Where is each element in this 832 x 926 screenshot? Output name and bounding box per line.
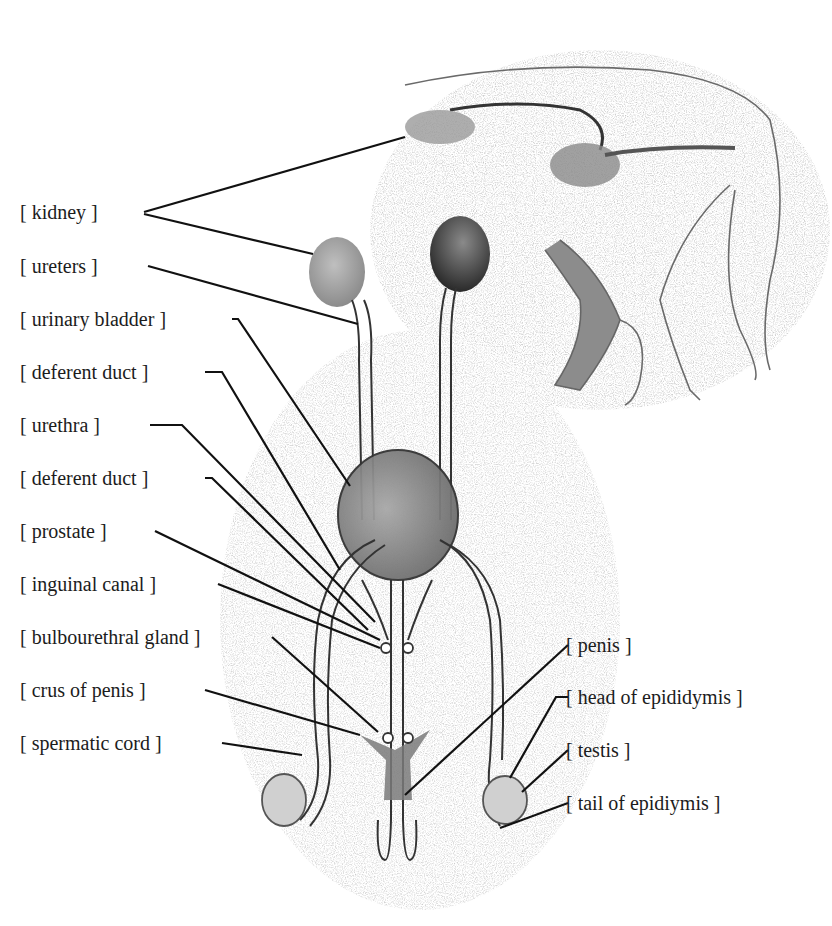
label-spermatic-cord: [ spermatic cord ] <box>20 731 162 755</box>
left-kidney <box>309 237 365 307</box>
label-penis: [ penis ] <box>566 633 632 657</box>
label-inguinal-canal: [ inguinal canal ] <box>20 572 156 596</box>
left-testis <box>262 774 306 826</box>
label-bulbourethral-gland: [ bulbourethral gland ] <box>20 625 201 649</box>
label-deferent-duct-1: [ deferent duct ] <box>20 360 148 384</box>
right-kidney <box>430 216 490 292</box>
label-ureters: [ ureters ] <box>20 254 98 278</box>
label-tail-of-epididymis: [ tail of epidiymis ] <box>566 791 720 815</box>
anatomy-illustration <box>0 0 832 926</box>
label-crus-of-penis: [ crus of penis ] <box>20 678 146 702</box>
label-deferent-duct-2: [ deferent duct ] <box>20 466 148 490</box>
label-prostate: [ prostate ] <box>20 519 107 543</box>
right-testis <box>483 776 527 824</box>
label-kidney: [ kidney ] <box>20 200 98 224</box>
stipple-background <box>220 50 830 910</box>
label-urethra: [ urethra ] <box>20 413 100 437</box>
label-head-of-epididymis: [ head of epididymis ] <box>566 685 743 709</box>
label-testis: [ testis ] <box>566 738 630 762</box>
label-urinary-bladder: [ urinary bladder ] <box>20 307 166 331</box>
urinary-bladder-shape <box>338 450 458 580</box>
